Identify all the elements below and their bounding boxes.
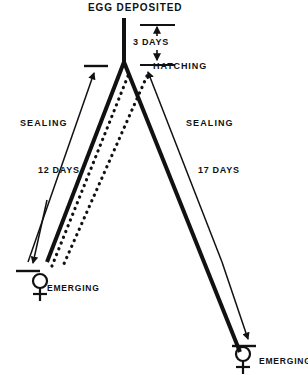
female-symbol-left	[33, 274, 47, 301]
emerging-left-label: EMERGING	[47, 284, 100, 293]
twelve-days-label: 12 DAYS	[38, 166, 80, 175]
three-days-label: 3 DAYS	[133, 38, 169, 47]
diagram-canvas	[0, 0, 308, 375]
emerging-right-label: EMERGING	[259, 357, 308, 366]
hatching-label: HATCHING	[153, 62, 207, 71]
egg-deposited-label: EGG DEPOSITED	[88, 3, 183, 13]
sealing-left-label: SEALING	[20, 119, 68, 128]
emerging-left-arrow	[33, 200, 47, 263]
thick-right-branch-line	[124, 62, 240, 352]
sealing-right-label: SEALING	[186, 119, 234, 128]
seventeen-days-label: 17 DAYS	[198, 166, 240, 175]
thick-left-branch-line	[47, 62, 124, 262]
life-cycle-diagram: EGG DEPOSITED 3 DAYS HATCHING SEALING SE…	[0, 0, 308, 375]
emerging-right-arrow	[222, 262, 248, 339]
